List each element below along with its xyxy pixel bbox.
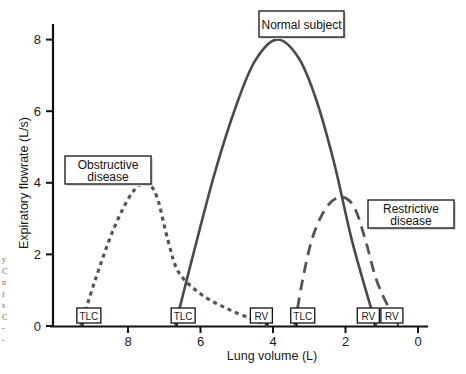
x-axis-label: Lung volume (L) xyxy=(227,349,317,363)
series-annotations: Normal subjectObstructivediseaseRestrict… xyxy=(65,11,456,230)
x-tick-label: 2 xyxy=(342,334,349,349)
tlc-marker: TLC xyxy=(291,308,315,326)
margin-fragment: C xyxy=(2,313,7,322)
annotation-text: Normal subject xyxy=(261,18,342,32)
x-tick-label: 6 xyxy=(197,334,204,349)
marker-label: TLC xyxy=(174,311,193,322)
volume-markers: TLCRVTLCRVTLCRV xyxy=(77,308,403,326)
marker-label: TLC xyxy=(79,311,98,322)
annotation-text: disease xyxy=(87,170,129,184)
y-tick-label: 0 xyxy=(34,319,41,334)
y-tick-label: 2 xyxy=(34,247,41,262)
y-tick-label: 4 xyxy=(34,175,41,190)
marker-label: RV xyxy=(361,311,375,322)
x-tick-label: 8 xyxy=(124,334,131,349)
x-tick-label: 4 xyxy=(269,334,276,349)
margin-fragment: n xyxy=(2,278,6,287)
margin-text-fragments: yCnfsC-- xyxy=(2,255,7,345)
rv-marker: RV xyxy=(381,308,403,326)
annotation-text: disease xyxy=(390,214,432,228)
obstructive-disease-annotation: Obstructivedisease xyxy=(65,156,153,186)
tlc-marker: TLC xyxy=(77,308,101,326)
margin-fragment: - xyxy=(2,336,5,345)
x-ticks: 86420 xyxy=(124,326,421,349)
margin-fragment: y xyxy=(2,255,6,264)
normal-subject-annotation: Normal subject xyxy=(259,11,346,39)
margin-fragment: C xyxy=(2,267,7,276)
margin-fragment: - xyxy=(2,324,5,333)
marker-label: TLC xyxy=(293,311,312,322)
marker-label: RV xyxy=(255,311,269,322)
flow-volume-chart: yCnfsC-- 02468 86420 Expiratory flowrate… xyxy=(0,0,466,374)
y-tick-label: 8 xyxy=(34,32,41,47)
marker-label: RV xyxy=(385,311,399,322)
margin-fragment: f xyxy=(2,290,5,299)
y-axis-label: Expiratory flowrate (L/s) xyxy=(17,117,31,249)
x-tick-label: 0 xyxy=(414,334,421,349)
y-tick-label: 6 xyxy=(34,104,41,119)
rv-marker: RV xyxy=(357,308,379,326)
obstructive-disease-curve xyxy=(81,183,270,326)
margin-fragment: s xyxy=(2,301,5,310)
rv-marker: RV xyxy=(250,308,272,326)
normal-subject-curve xyxy=(175,40,376,326)
y-ticks: 02468 xyxy=(34,32,53,333)
restrictive-disease-annotation: Restrictivedisease xyxy=(368,200,456,230)
tlc-marker: TLC xyxy=(171,308,195,326)
